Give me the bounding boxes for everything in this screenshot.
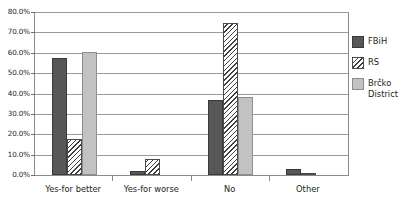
bar-fbih <box>130 171 145 175</box>
bar-brcko <box>82 52 97 175</box>
legend-label: RS <box>368 57 379 68</box>
plot-area <box>34 12 349 176</box>
bar-rs <box>67 139 82 175</box>
legend-swatch-fbih <box>352 36 364 48</box>
y-axis-tick-label: 50.0% <box>0 70 30 77</box>
bar-rs <box>145 159 160 175</box>
y-axis-tick-label: 60.0% <box>0 49 30 56</box>
x-axis-tick-label: Other <box>269 185 347 193</box>
y-axis-tick-label: 80.0% <box>0 8 30 15</box>
y-axis-tick-label: 20.0% <box>0 131 30 138</box>
bar-group <box>113 12 191 175</box>
x-axis-tick-label: Yes-for better <box>34 185 112 193</box>
legend-item: FBiH <box>352 36 401 48</box>
bar-group <box>270 12 348 175</box>
x-axis-separator <box>191 176 192 181</box>
y-axis: 0.0%10.0%20.0%30.0%40.0%50.0%60.0%70.0%8… <box>0 0 30 206</box>
x-axis-separator <box>269 176 270 181</box>
x-axis: Yes-for betterYes-for worseNoOther <box>34 176 347 202</box>
legend-swatch-brcko <box>352 78 364 90</box>
bar-rs <box>301 173 316 175</box>
bar-group <box>192 12 270 175</box>
legend-label: Brčko District <box>368 78 398 99</box>
bar-fbih <box>208 100 223 175</box>
x-axis-tick-label: Yes-for worse <box>112 185 190 193</box>
legend-label: FBiH <box>368 36 387 47</box>
bar-fbih <box>52 58 67 175</box>
x-axis-separator <box>112 176 113 181</box>
y-axis-tick-label: 30.0% <box>0 110 30 117</box>
x-axis-tick-label: No <box>191 185 269 193</box>
bar-chart: 0.0%10.0%20.0%30.0%40.0%50.0%60.0%70.0%8… <box>0 0 401 206</box>
bar-rs <box>223 23 238 175</box>
bars-layer <box>35 12 348 175</box>
y-axis-tick-label: 10.0% <box>0 151 30 158</box>
legend: FBiHRSBrčko District <box>352 36 401 108</box>
y-axis-tick-label: 0.0% <box>0 171 30 178</box>
bar-brcko <box>238 97 253 175</box>
bar-fbih <box>286 169 301 175</box>
legend-swatch-rs <box>352 57 364 69</box>
y-axis-tick-label: 40.0% <box>0 90 30 97</box>
bar-group <box>35 12 113 175</box>
legend-item: RS <box>352 57 401 69</box>
y-axis-tick-label: 70.0% <box>0 29 30 36</box>
legend-item: Brčko District <box>352 78 401 99</box>
